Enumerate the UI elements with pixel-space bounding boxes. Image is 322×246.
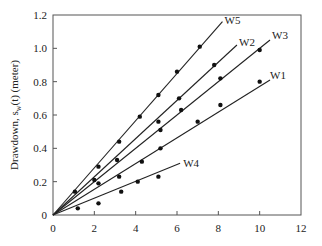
data-point-w1 — [195, 119, 199, 123]
y-tick-label: 0.4 — [33, 142, 47, 154]
x-tick-label: 12 — [296, 222, 307, 234]
fit-line-w3 — [53, 40, 270, 215]
data-point-w1 — [257, 79, 261, 83]
data-point-w5 — [96, 164, 100, 168]
data-point-w3 — [140, 159, 144, 163]
data-point-w3 — [158, 128, 162, 132]
y-tick-label: 0.8 — [33, 76, 47, 88]
fit-line-w5 — [53, 22, 222, 215]
series-label-w4: W4 — [183, 157, 199, 169]
fit-line-w4 — [53, 163, 180, 215]
data-point-w5 — [198, 44, 202, 48]
series-label-w3: W3 — [272, 29, 288, 41]
y-tick-label: 1.0 — [33, 42, 47, 54]
data-point-w4 — [119, 189, 123, 193]
data-point-w3 — [179, 108, 183, 112]
x-tick-label: 2 — [92, 222, 98, 234]
y-tick-label: 0.6 — [33, 109, 47, 121]
data-point-w2 — [156, 119, 160, 123]
data-point-w1 — [158, 146, 162, 150]
y-tick-label: 0.2 — [33, 176, 47, 188]
data-point-w3 — [218, 76, 222, 80]
data-point-w1 — [136, 179, 140, 183]
data-point-w1 — [117, 174, 121, 178]
fit-lines — [53, 22, 270, 215]
y-tick-label: 0 — [42, 209, 48, 221]
x-tick-label: 4 — [133, 222, 139, 234]
data-point-w3 — [257, 48, 261, 52]
x-axis: 024681012 — [50, 211, 306, 234]
series-label-w5: W5 — [225, 14, 241, 26]
drawdown-chart: 00.20.40.60.81.01.2 024681012 W5W2W3W1W4… — [0, 0, 322, 246]
y-axis-title: Drawdown, sw(t) (meter) — [8, 60, 23, 170]
series-labels: W5W2W3W1W4 — [183, 14, 288, 169]
series-label-w2: W2 — [239, 36, 255, 48]
series-label-w1: W1 — [270, 69, 286, 81]
y-tick-label: 1.2 — [33, 9, 47, 21]
data-point-w5 — [175, 69, 179, 73]
data-point-w5 — [117, 139, 121, 143]
data-point-w2 — [212, 63, 216, 67]
data-point-w5 — [138, 114, 142, 118]
x-tick-label: 0 — [50, 222, 56, 234]
x-tick-label: 8 — [216, 222, 222, 234]
data-point-w3 — [96, 181, 100, 185]
data-point-w5 — [156, 93, 160, 97]
fit-line-w2 — [53, 45, 237, 215]
data-point-w5 — [73, 189, 77, 193]
data-point-w2 — [177, 96, 181, 100]
data-point-w1 — [218, 103, 222, 107]
data-point-w4 — [96, 201, 100, 205]
data-point-w4 — [156, 174, 160, 178]
data-point-w2 — [115, 158, 119, 162]
data-point-w2 — [92, 178, 96, 182]
data-point-w4 — [76, 206, 80, 210]
x-tick-label: 10 — [254, 222, 266, 234]
x-tick-label: 6 — [174, 222, 180, 234]
